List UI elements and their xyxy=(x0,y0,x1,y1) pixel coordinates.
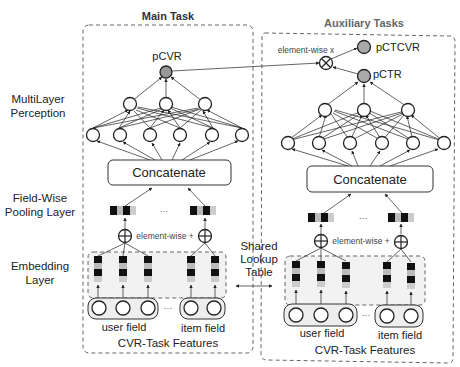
aux-elementwise-plus-label: element-wise + xyxy=(332,236,389,246)
main-task-panel: Main Task pCVR xyxy=(83,10,253,353)
pctcvr-label: pCTCVR xyxy=(376,41,420,53)
aux-item-field-label: item field xyxy=(378,329,422,341)
main-hidden-layer-1 xyxy=(87,129,249,142)
shared-label-1: Shared xyxy=(240,240,277,252)
main-field-ellipsis: ··· xyxy=(164,303,173,313)
aux-embedding-region xyxy=(285,256,425,305)
shared-label-2: Lookup xyxy=(240,253,278,265)
main-user-field-label: user field xyxy=(102,321,147,333)
pctr-output-node xyxy=(358,70,371,83)
aux-pooled-vector-user xyxy=(308,213,334,222)
aux-features-label: CVR-Task Features xyxy=(315,344,416,356)
aux-pool-ellipsis: ··· xyxy=(359,213,368,223)
pcvr-output-node xyxy=(160,66,172,78)
main-task-title: Main Task xyxy=(142,10,195,22)
main-mlp-edges xyxy=(93,77,242,160)
multiply-node xyxy=(320,57,333,70)
main-plus-user xyxy=(119,230,132,243)
pcvr-label: pCVR xyxy=(152,50,181,62)
main-features-label: CVR-Task Features xyxy=(118,337,219,349)
main-elementwise-plus-label: element-wise + xyxy=(136,231,193,241)
elementwise-x-label: element-wise x xyxy=(278,45,335,55)
aux-task-title: Auxiliary Tasks xyxy=(324,17,404,29)
aux-mlp-edges xyxy=(287,82,443,166)
pooling-label-1: Field-Wise xyxy=(13,192,67,204)
aux-hidden-layer-1 xyxy=(282,137,451,150)
esmm-architecture-diagram: MultiLayer Perception Field-Wise Pooling… xyxy=(0,0,460,367)
main-plus-item xyxy=(199,230,212,243)
main-item-field-label: item field xyxy=(181,322,225,334)
pctr-label: pCTR xyxy=(373,68,402,80)
shared-lookup-table: Shared Lookup Table xyxy=(236,240,278,286)
side-labels: MultiLayer Perception Field-Wise Pooling… xyxy=(5,93,75,286)
main-embedding-region xyxy=(88,252,226,298)
aux-concatenate-label: Concatenate xyxy=(333,172,407,187)
pooling-label-2: Pooling Layer xyxy=(5,206,75,218)
mlp-label-2: Perception xyxy=(11,107,66,119)
main-pooled-vector-item xyxy=(190,206,216,215)
embedding-label-1: Embedding xyxy=(11,260,69,272)
shared-label-3: Table xyxy=(245,266,273,278)
pcvr-to-multiply-edge xyxy=(172,63,319,71)
main-pooled-vector-user xyxy=(110,206,136,215)
pctcvr-output-node xyxy=(358,41,371,54)
aux-user-field-label: user field xyxy=(300,327,345,339)
aux-plus-item xyxy=(395,236,408,249)
aux-pooled-vector-item xyxy=(388,213,414,222)
mlp-label-1: MultiLayer xyxy=(11,93,64,105)
main-pool-ellipsis: ··· xyxy=(160,206,169,216)
embedding-label-2: Layer xyxy=(26,274,55,286)
aux-hidden-layer-2 xyxy=(319,104,415,117)
main-concatenate-label: Concatenate xyxy=(132,165,206,180)
aux-field-ellipsis: ··· xyxy=(362,310,371,320)
aux-plus-user xyxy=(315,235,328,248)
main-hidden-layer-2 xyxy=(124,98,212,111)
